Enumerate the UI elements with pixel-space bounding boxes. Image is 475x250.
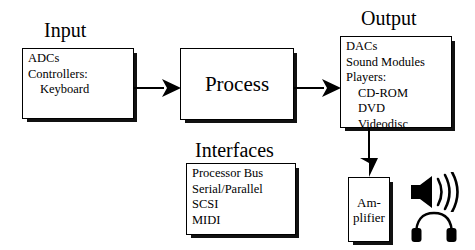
process-label: Process	[181, 49, 293, 119]
connector-process-to-output	[294, 79, 342, 97]
output-title: Output	[361, 8, 417, 28]
connector-output-to-amplifier	[360, 128, 378, 178]
diagram-canvas: Input ADCs Controllers: Keyboard Process…	[0, 0, 475, 250]
speaker-icon	[410, 172, 466, 212]
amplifier-box[interactable]: Am- plifier	[348, 177, 390, 242]
output-box[interactable]: DACs Sound Modules Players: CD-ROM DVD V…	[340, 36, 452, 128]
input-item-list: ADCs Controllers: Keyboard	[28, 51, 131, 98]
amplifier-label: Am- plifier	[349, 178, 389, 241]
interfaces-item: SCSI	[192, 197, 293, 213]
input-item: ADCs	[28, 51, 131, 67]
input-item: Keyboard	[28, 82, 131, 98]
output-item: CD-ROM	[346, 86, 449, 102]
input-title: Input	[44, 20, 86, 40]
interfaces-item-list: Processor Bus Serial/Parallel SCSI MIDI	[192, 166, 293, 228]
connector-input-to-process	[134, 79, 182, 97]
amplifier-label-line1: Am-	[357, 195, 381, 210]
interfaces-item: MIDI	[192, 213, 293, 229]
output-item: DVD	[346, 101, 449, 117]
output-item-list: DACs Sound Modules Players: CD-ROM DVD V…	[346, 39, 449, 132]
output-item: Sound Modules	[346, 55, 449, 71]
headphones-icon	[410, 209, 458, 243]
input-box[interactable]: ADCs Controllers: Keyboard	[22, 48, 134, 119]
output-item: DACs	[346, 39, 449, 55]
interfaces-item: Processor Bus	[192, 166, 293, 182]
output-item: Players:	[346, 70, 449, 86]
interfaces-item: Serial/Parallel	[192, 182, 293, 198]
process-box[interactable]: Process	[180, 48, 294, 120]
interfaces-title: Interfaces	[195, 140, 274, 160]
input-item: Controllers:	[28, 67, 131, 83]
amplifier-label-line2: plifier	[353, 210, 385, 225]
interfaces-box[interactable]: Processor Bus Serial/Parallel SCSI MIDI	[186, 163, 296, 235]
